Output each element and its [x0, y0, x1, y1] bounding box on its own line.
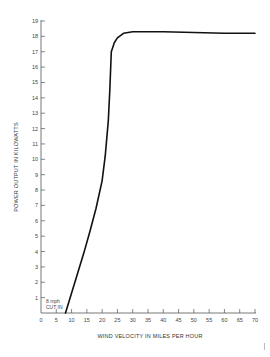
x-tick-label: 10 — [69, 317, 75, 323]
y-tick-label: 1 — [35, 295, 38, 301]
y-tick-label: 4 — [35, 249, 38, 255]
x-tick-label: 45 — [176, 317, 182, 323]
scan-edge-mark — [264, 343, 265, 350]
cut-in-label-line2: CUT IN — [46, 304, 63, 310]
y-tick-label: 6 — [35, 218, 38, 224]
x-tick-label: 0 — [39, 317, 42, 323]
x-tick-label: 30 — [130, 317, 136, 323]
y-tick-label: 10 — [32, 156, 38, 162]
y-tick-label: 2 — [35, 279, 38, 285]
x-tick-label: 65 — [237, 317, 243, 323]
x-tick-label: 25 — [114, 317, 120, 323]
y-tick-label: 9 — [35, 172, 38, 178]
y-tick-label: 16 — [32, 64, 38, 70]
x-tick-label: 15 — [84, 317, 90, 323]
y-tick-label: 11 — [32, 141, 38, 147]
y-tick-label: 13 — [32, 110, 38, 116]
x-tick-label: 40 — [160, 317, 166, 323]
y-tick-label: 5 — [35, 233, 38, 239]
x-tick-label: 55 — [206, 317, 212, 323]
y-tick-label: 15 — [32, 79, 38, 85]
y-tick-label: 3 — [35, 264, 38, 270]
x-axis-title: WIND VELOCITY IN MILES PER HOUR — [97, 333, 202, 339]
power-curve-chart: 12345678910111213141516171819 0510152025… — [0, 0, 270, 357]
y-tick-label: 19 — [32, 18, 38, 24]
y-tick-label: 12 — [32, 126, 38, 132]
power-curve-line — [66, 32, 256, 313]
y-tick-label: 14 — [32, 95, 38, 101]
y-tick-label: 17 — [32, 49, 38, 55]
x-tick-label: 20 — [99, 317, 105, 323]
x-tick-label: 5 — [55, 317, 58, 323]
y-tick-label: 8 — [35, 187, 38, 193]
y-axis: 12345678910111213141516171819 — [32, 18, 45, 313]
x-tick-label: 60 — [221, 317, 227, 323]
y-tick-label: 18 — [32, 33, 38, 39]
x-tick-label: 50 — [191, 317, 197, 323]
x-tick-label: 70 — [252, 317, 258, 323]
y-tick-label: 7 — [35, 202, 38, 208]
y-axis-title: POWER OUTPUT IN KILOWATTS — [13, 122, 19, 212]
x-tick-label: 35 — [145, 317, 151, 323]
x-axis: 0510152025303540455055606570 — [39, 309, 258, 323]
